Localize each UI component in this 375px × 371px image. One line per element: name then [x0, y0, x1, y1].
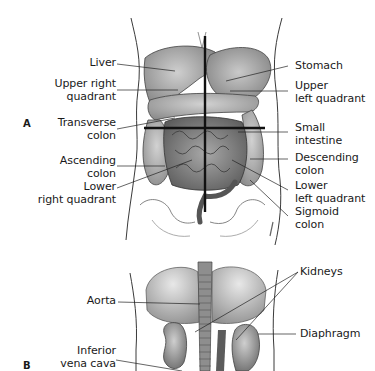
label-line: colon — [58, 130, 116, 143]
panel-a-illustration — [117, 18, 288, 245]
label-aorta-text: Aorta — [87, 294, 116, 307]
label-line: Inferior — [60, 345, 116, 358]
label-diaphragm: Diaphragm — [300, 328, 360, 341]
label-line: Lower — [38, 181, 116, 194]
panel-a-letter: A — [23, 118, 31, 129]
label-lower-right-quadrant: Lower right quadrant — [38, 181, 116, 206]
label-line: intestine — [295, 135, 342, 148]
label-stomach-text: Stomach — [295, 59, 343, 72]
label-descending-colon: Descending colon — [295, 152, 359, 177]
label-line: colon — [60, 168, 116, 181]
label-kidneys: Kidneys — [300, 266, 343, 279]
label-aorta: Aorta — [87, 295, 116, 308]
label-lower-left-quadrant: Lower left quadrant — [295, 180, 365, 205]
label-line: right quadrant — [38, 194, 116, 207]
panel-b-illustration — [116, 262, 298, 371]
label-upper-left-quadrant: Upper left quadrant — [295, 80, 365, 105]
label-line: Lower — [295, 180, 365, 193]
label-diaphragm-text: Diaphragm — [300, 327, 360, 340]
label-ascending-colon: Ascending colon — [60, 155, 116, 180]
label-liver-text: Liver — [90, 56, 117, 69]
label-line: Small — [295, 122, 342, 135]
label-line: quadrant — [54, 91, 116, 104]
label-small-intestine: Small intestine — [295, 122, 342, 147]
label-line: Upper — [295, 80, 365, 93]
label-transverse-colon: Transverse colon — [58, 117, 116, 142]
label-line: Descending — [295, 152, 359, 165]
panel-b-letter: B — [23, 360, 31, 371]
label-upper-right-quadrant: Upper right quadrant — [54, 78, 116, 103]
label-line: Sigmoid — [295, 206, 339, 219]
label-line: colon — [295, 219, 339, 232]
label-line: colon — [295, 165, 359, 178]
label-line: Upper right — [54, 78, 116, 91]
label-line: Ascending — [60, 155, 116, 168]
label-line: Transverse — [58, 117, 116, 130]
abdominal-anatomy-figure: A Liver Upper right quadrant Transverse … — [0, 0, 375, 371]
label-line: left quadrant — [295, 193, 365, 206]
label-line: left quadrant — [295, 93, 365, 106]
label-inferior-vena-cava: Inferior vena cava — [60, 345, 116, 370]
label-liver: Liver — [90, 57, 117, 70]
label-line: vena cava — [60, 358, 116, 371]
label-kidneys-text: Kidneys — [300, 265, 343, 278]
label-sigmoid-colon: Sigmoid colon — [295, 206, 339, 231]
label-stomach: Stomach — [295, 60, 343, 73]
